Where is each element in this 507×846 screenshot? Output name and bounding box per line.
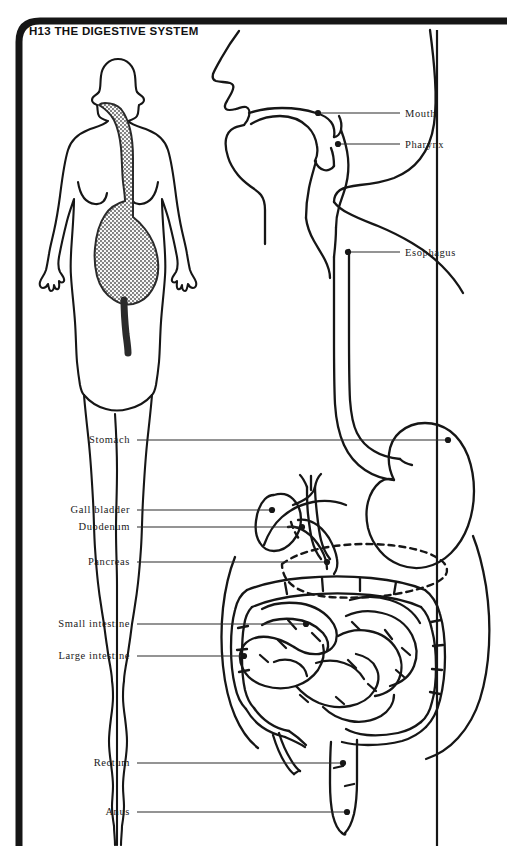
leader-dot-gall-bladder [269, 507, 275, 513]
gall-bladder [256, 487, 315, 551]
leader-dot-mouth [315, 110, 321, 116]
leader-dot-duodenum [299, 524, 305, 530]
rectum-anus [330, 740, 357, 835]
small-intestine [240, 597, 420, 722]
label-large-intestine: Large intestine [59, 650, 131, 661]
leader-dot-anus [344, 809, 350, 815]
pharynx-larynx [306, 130, 348, 278]
abdominal-outline [222, 536, 490, 759]
leader-dot-small-intestine [303, 621, 309, 627]
pancreas [282, 522, 447, 598]
leader-dot-large-intestine [241, 653, 247, 659]
label-mouth: Mouth [405, 108, 436, 119]
leader-dot-pharynx [335, 141, 341, 147]
esophagus [334, 250, 400, 480]
body-figure [0, 0, 507, 846]
label-stomach: Stomach [89, 434, 130, 445]
label-pharynx: Pharynx [405, 139, 444, 150]
digestive-tract-shading [95, 103, 159, 353]
stomach [367, 423, 475, 568]
leader-dot-stomach [445, 437, 451, 443]
oral-cavity [249, 108, 341, 170]
label-pancreas: Pancreas [88, 556, 130, 567]
digestive-system-diagram [0, 0, 507, 846]
label-gall-bladder: Gall bladder [71, 504, 130, 515]
label-small-intestine: Small intestine [58, 618, 130, 629]
bile-duct [300, 474, 330, 559]
label-anus: Anus [105, 806, 130, 817]
label-esophagus: Esophagus [405, 247, 456, 258]
label-leader-lines [0, 0, 507, 846]
leader-dot-esophagus [345, 249, 351, 255]
label-rectum: Rectum [94, 757, 130, 768]
duodenum [288, 520, 337, 574]
large-intestine [231, 577, 445, 775]
label-duodenum: Duodenum [79, 521, 130, 532]
upper-abdomen-contour [264, 501, 346, 545]
page-title: H13 THE DIGESTIVE SYSTEM [29, 25, 199, 37]
page-frame [0, 0, 507, 846]
leader-dot-rectum [340, 760, 346, 766]
body-outline [40, 59, 197, 845]
leader-dot-pancreas [324, 559, 330, 565]
diagram-page: H13 THE DIGESTIVE SYSTEM MouthPharynxEso… [0, 0, 507, 846]
